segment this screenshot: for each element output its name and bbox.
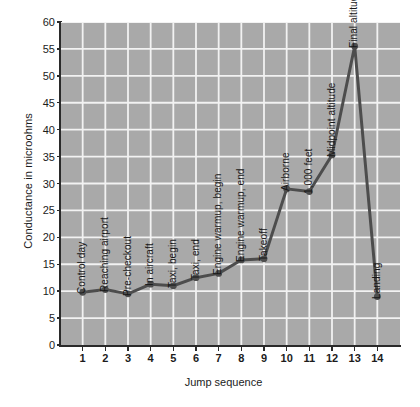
data-series-line xyxy=(60,22,400,345)
y-tick-label: 40 xyxy=(9,125,55,135)
x-axis-title: Jump sequence xyxy=(46,376,401,388)
x-tick-mark xyxy=(127,346,128,351)
x-tick-mark xyxy=(377,346,378,351)
y-tick-label: 20 xyxy=(9,232,55,242)
y-tick-label: 60 xyxy=(9,17,55,27)
x-tick-label: 14 xyxy=(362,352,392,364)
point-annotation: Engine warmup, begin xyxy=(212,174,223,276)
x-tick-mark xyxy=(286,346,287,351)
point-annotation: Taxi, end xyxy=(190,239,201,280)
point-annotation: 1,000 feet xyxy=(303,148,314,193)
x-axis-line xyxy=(59,345,401,347)
point-annotation: In aircraft xyxy=(144,243,155,286)
y-tick-label: 35 xyxy=(9,152,55,162)
point-annotation: Landing xyxy=(371,262,382,298)
y-axis-tick-labels: 051015202530354045505560 xyxy=(3,0,55,407)
point-annotation: Pre-checkout xyxy=(122,236,133,296)
y-tick-label: 55 xyxy=(9,44,55,54)
x-tick-mark xyxy=(82,346,83,351)
y-tick-label: 25 xyxy=(9,205,55,215)
chart-figure: Conductance in microohms 051015202530354… xyxy=(0,0,420,407)
y-tick-label: 45 xyxy=(9,98,55,108)
x-tick-mark xyxy=(354,346,355,351)
x-tick-mark xyxy=(309,346,310,351)
point-annotation: Control day xyxy=(76,242,87,294)
point-annotation: Taxi, begin xyxy=(167,239,178,288)
point-annotation: Engine warmup, end xyxy=(235,168,246,262)
y-tick-label: 0 xyxy=(9,340,55,350)
point-annotation: Takeoff xyxy=(258,228,269,261)
y-tick-label: 15 xyxy=(9,259,55,269)
plot-area xyxy=(60,22,400,345)
x-tick-mark xyxy=(263,346,264,351)
point-annotation: Final altitude xyxy=(348,0,359,48)
point-annotation: Reaching airport xyxy=(99,217,110,292)
x-tick-mark xyxy=(241,346,242,351)
point-annotation: Midpoint altitude xyxy=(326,82,337,157)
y-tick-label: 10 xyxy=(9,286,55,296)
x-tick-mark xyxy=(195,346,196,351)
y-tick-label: 50 xyxy=(9,71,55,81)
y-axis-line xyxy=(59,22,61,346)
x-tick-mark xyxy=(150,346,151,351)
x-tick-mark xyxy=(105,346,106,351)
y-tick-label: 30 xyxy=(9,179,55,189)
y-tick-label: 5 xyxy=(9,313,55,323)
x-tick-mark xyxy=(218,346,219,351)
x-tick-mark xyxy=(331,346,332,351)
x-tick-mark xyxy=(173,346,174,351)
point-annotation: Airborne xyxy=(280,152,291,191)
